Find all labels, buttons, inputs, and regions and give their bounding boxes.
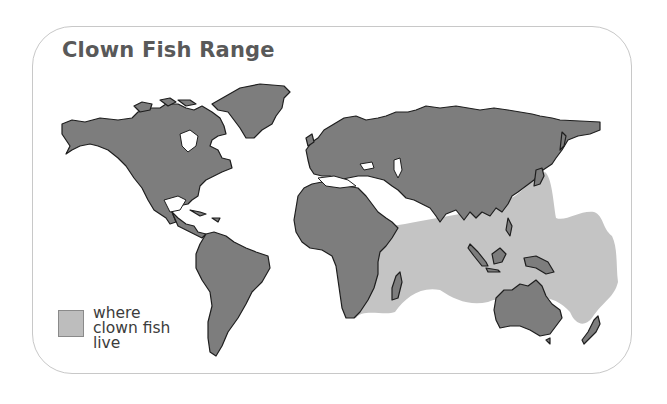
caribbean-islands bbox=[190, 210, 220, 222]
tasmania bbox=[546, 338, 550, 344]
legend-label: where clown fish live bbox=[93, 306, 170, 351]
south-america bbox=[196, 232, 270, 356]
map-legend: where clown fish live bbox=[58, 306, 170, 351]
legend-swatch bbox=[58, 310, 84, 337]
legend-line-3: live bbox=[93, 336, 170, 351]
north-america bbox=[62, 104, 232, 224]
